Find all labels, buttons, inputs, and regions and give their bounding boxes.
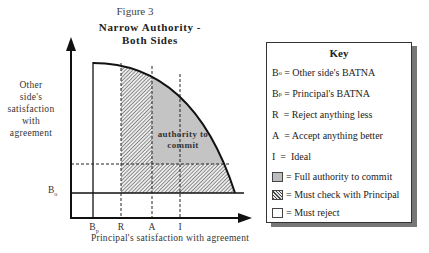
y-axis-label: Other side's satisfaction with agreement: [6, 79, 56, 139]
key-item-bp: Bp = Principal's BATNA: [272, 88, 370, 99]
key-symbol: R: [272, 109, 279, 120]
key-text: = Principal's BATNA: [282, 88, 370, 99]
y-tick-bo: Bo: [48, 185, 57, 197]
key-text: = Full authority to commit: [286, 171, 392, 182]
key-item-r: R = Reject anything less: [272, 109, 372, 120]
key-text: = Other side's BATNA: [282, 67, 376, 78]
key-symbol: A: [272, 130, 279, 141]
key-item-bo: Bo = Other side's BATNA: [272, 67, 375, 78]
hatched-swatch-icon: [272, 190, 283, 200]
key-swatch-must-reject: = Must reject: [272, 207, 339, 218]
empty-swatch-icon: [272, 208, 283, 218]
y-label-line: with: [6, 115, 56, 127]
key-title: Key: [267, 47, 411, 59]
key-text: = Reject anything less: [279, 109, 373, 120]
y-axis-arrow-icon: [66, 37, 76, 51]
full-authority-swatch-icon: [272, 172, 283, 182]
key-text: = Ideal: [275, 151, 311, 162]
authority-label-line-1: authority to: [148, 129, 218, 140]
key-text: = Must check with Principal: [286, 189, 399, 200]
x-tick-i: I: [170, 222, 190, 232]
y-label-line: agreement: [6, 127, 56, 139]
key-symbol: B: [272, 67, 279, 78]
tick-sub: o: [54, 191, 57, 197]
key-item-i: I = Ideal: [272, 151, 311, 162]
key-item-a: A = Accept anything better: [272, 130, 383, 141]
authority-region-label: authority to commit: [148, 129, 218, 151]
tick-base: R: [118, 222, 124, 232]
x-axis-arrow-icon: [238, 213, 252, 223]
key-symbol: B: [272, 88, 279, 99]
y-label-line: Other: [6, 79, 56, 91]
y-label-line: side's: [6, 91, 56, 103]
x-tick-a: A: [142, 222, 162, 232]
key-swatch-full-authority: = Full authority to commit: [272, 171, 392, 182]
key-text: = Must reject: [286, 207, 339, 218]
key-swatch-must-check: = Must check with Principal: [272, 189, 399, 200]
tick-base: A: [149, 222, 156, 232]
authority-label-line-2: commit: [148, 140, 218, 151]
full-authority-region: [121, 40, 252, 193]
y-label-line: satisfaction: [6, 103, 56, 115]
key-text: = Accept anything better: [279, 130, 383, 141]
x-axis-label: Principal's satisfaction with agreement: [80, 233, 260, 243]
key-legend-box: Key Bo = Other side's BATNA Bp = Princip…: [266, 42, 412, 223]
x-tick-r: R: [111, 222, 131, 232]
tick-base: I: [178, 222, 181, 232]
